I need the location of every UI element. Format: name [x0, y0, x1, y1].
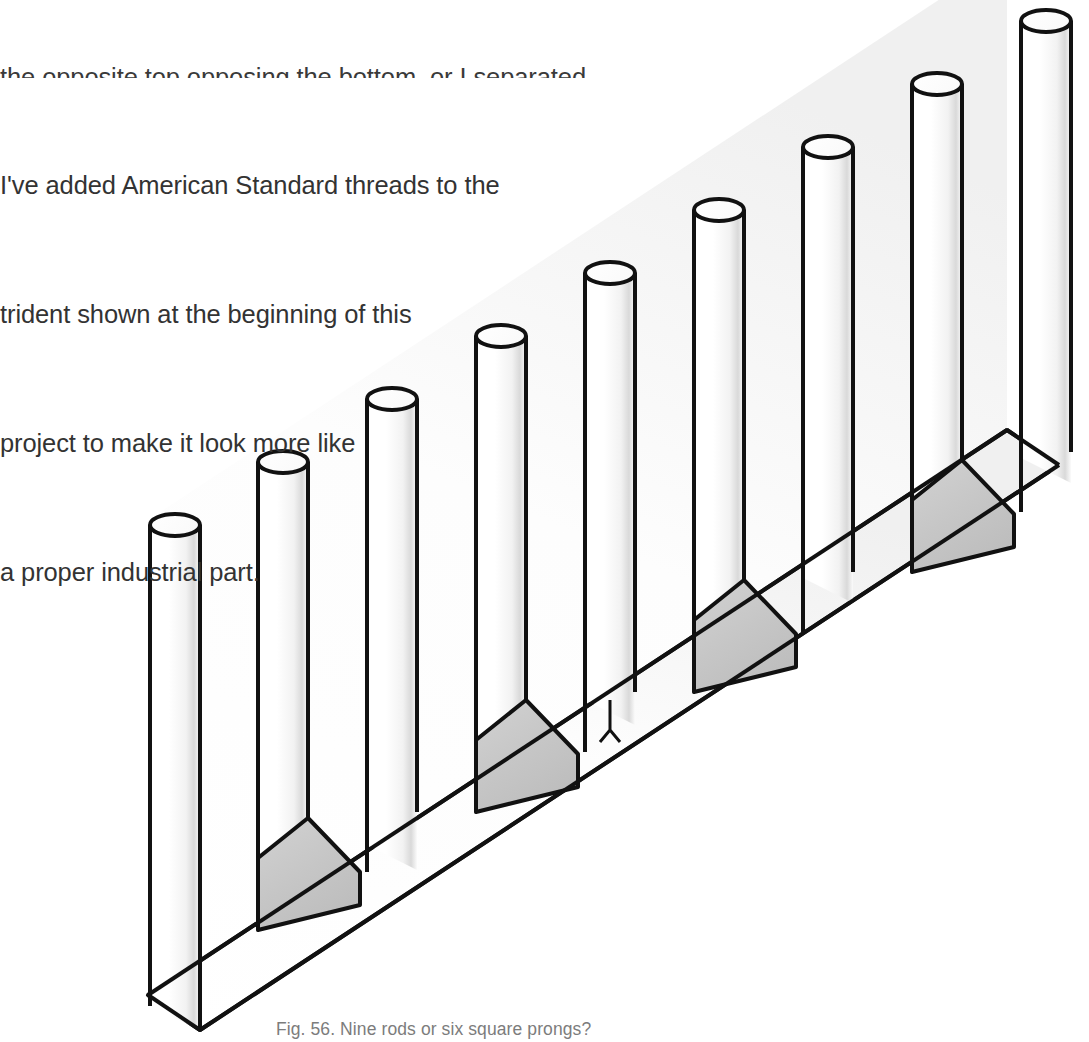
- slot-3: [694, 580, 796, 692]
- inner-notch-stub: [600, 700, 620, 742]
- slot-3-floor: [694, 580, 796, 692]
- rod-7-cap: [803, 136, 853, 158]
- rod-8: [912, 73, 962, 572]
- rod-7: [803, 136, 853, 632]
- body-line-cutoff: the opposite top opposing the bottom, or…: [0, 56, 620, 78]
- slot-2: [476, 700, 578, 812]
- slot-1: [258, 818, 360, 930]
- slot-4: [912, 460, 1014, 572]
- rod-6: [694, 199, 744, 692]
- figure-caption: Fig. 56. Nine rods or six square prongs?: [276, 1018, 836, 1040]
- body-line-2: trident shown at the beginning of this: [0, 293, 620, 336]
- body-line-1: I've added American Standard threads to …: [0, 164, 620, 207]
- slab-left-cap: [148, 995, 200, 1030]
- slot-4-floor: [912, 460, 1014, 572]
- rod-6-body: [694, 210, 744, 665]
- rod-8-cap: [912, 73, 962, 95]
- rod-9: [1021, 10, 1071, 512]
- rod-8-body: [912, 84, 962, 543]
- body-paragraph: the opposite top opposing the bottom, or…: [0, 0, 620, 680]
- slot-1-floor: [258, 818, 360, 930]
- rod-9-body: [1021, 21, 1071, 483]
- slab-right-cap: [1007, 430, 1059, 465]
- page-canvas: the opposite top opposing the bottom, or…: [0, 0, 1089, 1042]
- slot-2-floor: [476, 700, 578, 812]
- body-line-3: project to make it look more like: [0, 422, 620, 465]
- rod-9-cap: [1021, 10, 1071, 32]
- body-line-4: a proper industrial part.: [0, 551, 620, 594]
- rod-6-cap: [694, 199, 744, 221]
- rod-7-body: [803, 147, 853, 603]
